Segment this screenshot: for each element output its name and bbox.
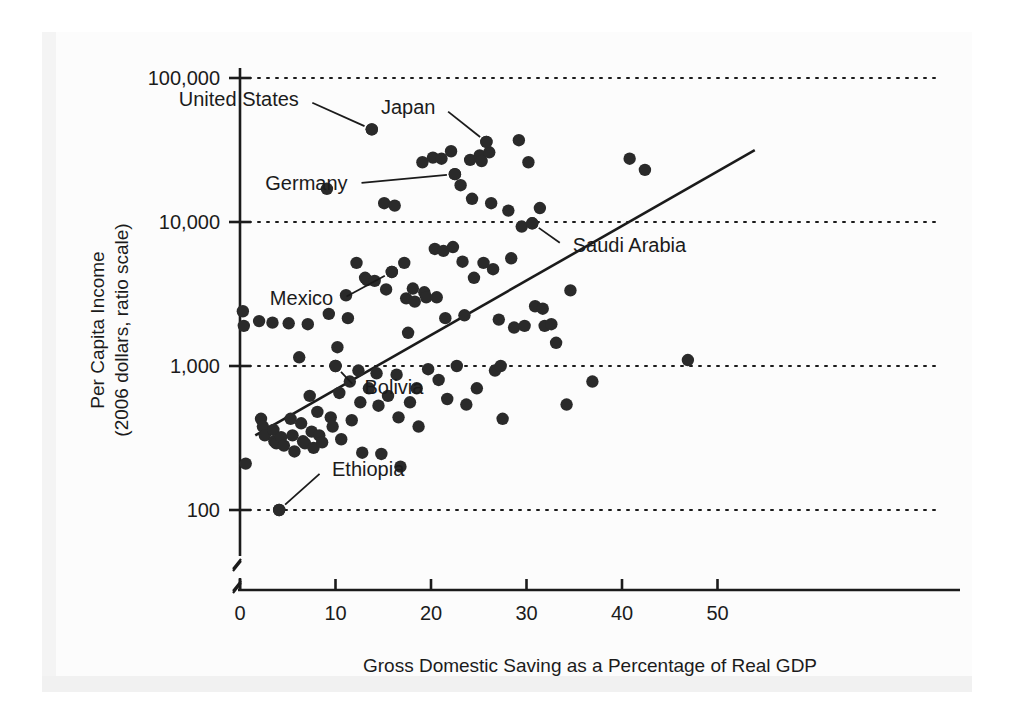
y-tick-label-1,000: 1,000 <box>170 355 220 377</box>
data-point <box>439 312 451 324</box>
data-point <box>342 312 354 324</box>
data-point <box>316 436 328 448</box>
data-point <box>560 398 572 410</box>
data-point <box>283 317 295 329</box>
data-point <box>623 153 635 165</box>
annotation-label-bolivia: Bolivia <box>365 376 425 398</box>
annotation-label-mexico: Mexico <box>270 287 333 309</box>
data-point-bolivia <box>329 360 341 372</box>
data-point <box>483 146 495 158</box>
data-point <box>253 315 265 327</box>
data-point <box>412 420 424 432</box>
data-point <box>238 320 250 332</box>
data-point <box>432 374 444 386</box>
x-tick-label-40: 40 <box>611 602 633 624</box>
data-point <box>389 199 401 211</box>
data-point <box>380 283 392 295</box>
data-point-mexico <box>386 266 398 278</box>
data-point <box>502 204 514 216</box>
data-point <box>286 429 298 441</box>
data-point <box>346 414 358 426</box>
data-point <box>639 164 651 176</box>
data-point <box>441 393 453 405</box>
data-point <box>460 398 472 410</box>
data-point-germany <box>449 168 461 180</box>
x-tick-label-20: 20 <box>420 602 442 624</box>
data-point <box>402 327 414 339</box>
leader-line-germany <box>362 175 447 183</box>
annotation-label-united-states: United States <box>179 88 299 110</box>
data-point <box>237 305 249 317</box>
data-point <box>522 156 534 168</box>
data-point <box>564 284 576 296</box>
data-point <box>398 257 410 269</box>
data-point <box>352 364 364 376</box>
data-point <box>293 351 305 363</box>
data-point <box>302 318 314 330</box>
data-point <box>431 291 443 303</box>
data-point <box>288 445 300 457</box>
data-point <box>493 313 505 325</box>
data-point <box>278 439 290 451</box>
data-point <box>537 302 549 314</box>
data-point <box>487 263 499 275</box>
data-point <box>295 417 307 429</box>
data-point <box>323 308 335 320</box>
data-point-ethiopia <box>273 504 285 516</box>
y-axis-title-line2: (2006 dollars, ratio scale) <box>111 223 132 436</box>
data-point <box>545 318 557 330</box>
data-point-japan <box>480 136 492 148</box>
ticks-group: 1001,00010,000100,00001020304050 <box>148 67 729 624</box>
data-point <box>682 354 694 366</box>
data-point <box>326 420 338 432</box>
x-tick-label-30: 30 <box>515 602 537 624</box>
y-tick-label-10,000: 10,000 <box>159 211 220 233</box>
data-point <box>454 179 466 191</box>
data-point <box>456 256 468 268</box>
data-point <box>392 411 404 423</box>
data-point <box>505 252 517 264</box>
x-axis-title: Gross Domestic Saving as a Percentage of… <box>363 655 817 676</box>
scatter-chart: 1001,00010,000100,00001020304050 United … <box>0 0 1011 723</box>
data-point <box>496 413 508 425</box>
leader-line-saudi-arabia <box>539 228 560 243</box>
data-point <box>407 282 419 294</box>
data-point <box>451 360 463 372</box>
data-point <box>240 457 252 469</box>
data-point <box>304 390 316 402</box>
axes-group <box>233 68 960 593</box>
axis-break-mark-1 <box>233 559 241 571</box>
data-point <box>518 320 530 332</box>
data-point <box>468 272 480 284</box>
y-tick-label-100,000: 100,000 <box>148 67 220 89</box>
y-axis-title-line1: Per Capita Income <box>87 251 108 408</box>
data-point <box>445 145 457 157</box>
data-point <box>471 382 483 394</box>
data-point <box>485 197 497 209</box>
data-point <box>350 257 362 269</box>
x-tick-label-10: 10 <box>324 602 346 624</box>
leader-line-ethiopia <box>285 474 319 505</box>
data-point <box>447 241 459 253</box>
data-point <box>466 193 478 205</box>
annotation-label-japan: Japan <box>381 96 436 118</box>
data-point <box>333 387 345 399</box>
x-tick-label-50: 50 <box>706 602 728 624</box>
data-point <box>331 341 343 353</box>
leader-line-japan <box>448 112 480 137</box>
data-point <box>378 197 390 209</box>
data-point <box>495 360 507 372</box>
data-point <box>409 295 421 307</box>
x-tick-label-0: 0 <box>234 602 245 624</box>
data-point <box>550 337 562 349</box>
data-point <box>508 321 520 333</box>
data-point-united-states <box>366 123 378 135</box>
data-point <box>534 202 546 214</box>
y-tick-label-100: 100 <box>187 499 220 521</box>
leader-line-united-states <box>312 103 364 126</box>
data-point <box>311 406 323 418</box>
annotation-label-saudi-arabia: Saudi Arabia <box>573 234 687 256</box>
data-point <box>513 134 525 146</box>
data-point-saudi-arabia <box>526 217 538 229</box>
annotation-label-germany: Germany <box>265 172 347 194</box>
